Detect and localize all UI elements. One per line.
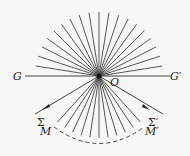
sigma-prime-arrow-icon <box>142 104 150 110</box>
upper-ray <box>61 24 99 76</box>
lower-ray <box>65 76 99 128</box>
sigma-arrow-icon <box>42 104 50 110</box>
optics-ray-diagram: G G′ O Σ Σ′ M M′ <box>0 0 190 156</box>
upper-ray <box>99 56 160 76</box>
upper-ray <box>99 38 151 76</box>
lower-ray-fan <box>58 76 141 138</box>
upper-ray <box>47 38 99 76</box>
label-m-prime: M′ <box>144 125 159 138</box>
label-g-prime: G′ <box>170 70 182 83</box>
center-point-o <box>97 74 102 79</box>
upper-ray <box>99 31 144 76</box>
label-m: M <box>39 125 52 138</box>
upper-ray <box>99 15 119 76</box>
upper-ray <box>38 56 99 76</box>
upper-ray <box>79 15 99 76</box>
upper-ray-fan <box>36 12 162 76</box>
label-g: G <box>13 70 22 83</box>
upper-ray <box>99 24 137 76</box>
label-o: O <box>110 76 119 89</box>
upper-ray <box>54 31 99 76</box>
